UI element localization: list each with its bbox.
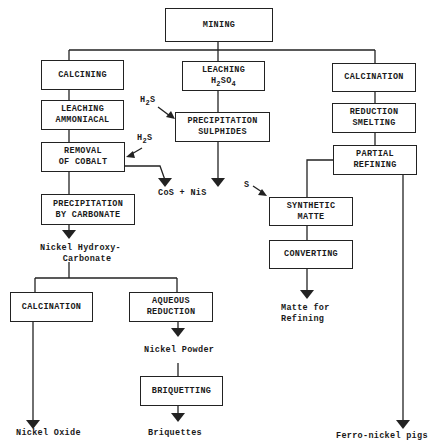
briquetting-label: BRIQUETTING bbox=[152, 386, 211, 397]
aqueous-reduction-box: AQUEOUS REDUCTION bbox=[129, 292, 213, 322]
calcining-label: CALCINING bbox=[58, 70, 107, 81]
partial-refining-line1: PARTIAL bbox=[356, 149, 394, 160]
mining-label: MINING bbox=[203, 20, 235, 31]
removal-line2: OF COBALT bbox=[59, 157, 108, 168]
reduction-smelting-line2: SMELTING bbox=[352, 118, 395, 129]
removal-of-cobalt-box: REMOVAL OF COBALT bbox=[41, 142, 125, 172]
cos-nis-product: CoS + NiS bbox=[158, 188, 207, 199]
removal-line1: REMOVAL bbox=[64, 146, 102, 157]
calcination-right-label: CALCINATION bbox=[344, 72, 403, 83]
reduction-smelting-box: REDUCTION SMELTING bbox=[332, 103, 416, 133]
precipitation-carbonate-line2: BY CARBONATE bbox=[56, 210, 121, 221]
precipitation-carbonate-line1: PRECIPITATION bbox=[53, 199, 123, 210]
nickel-oxide-product: Nickel Oxide bbox=[16, 428, 81, 439]
ferro-nickel-pigs-product: Ferro-nickel pigs bbox=[336, 431, 428, 442]
partial-refining-line2: REFINING bbox=[353, 160, 396, 171]
calcining-box: CALCINING bbox=[41, 60, 124, 90]
calcination-bottom-label: CALCINATION bbox=[22, 302, 81, 313]
partial-refining-box: PARTIAL REFINING bbox=[333, 145, 417, 175]
leaching-ammoniacal-line1: LEACHING bbox=[61, 104, 104, 115]
calcination-right-box: CALCINATION bbox=[332, 63, 416, 92]
h2s-reagent-label-left: H2S bbox=[137, 133, 152, 144]
nickel-hydroxy-carbonate-label: Nickel Hydroxy- Carbonate bbox=[40, 243, 121, 265]
leaching-h2so4-box: LEACHING H2SO4 bbox=[182, 61, 265, 91]
precipitation-sulphides-line2: SULPHIDES bbox=[198, 127, 247, 138]
aqueous-line1: AQUEOUS bbox=[152, 296, 190, 307]
nickel-powder-label: Nickel Powder bbox=[144, 345, 214, 356]
sulfur-reagent-label: S bbox=[244, 180, 249, 191]
aqueous-line2: REDUCTION bbox=[147, 307, 196, 318]
precipitation-sulphides-box: PRECIPITATION SULPHIDES bbox=[175, 112, 270, 142]
synthetic-matte-line1: SYNTHETIC bbox=[287, 201, 336, 212]
converting-label: CONVERTING bbox=[284, 249, 338, 260]
precipitation-carbonate-box: PRECIPITATION BY CARBONATE bbox=[41, 194, 135, 225]
calcination-bottom-box: CALCINATION bbox=[10, 292, 93, 322]
briquetting-box: BRIQUETTING bbox=[140, 376, 223, 406]
reduction-smelting-line1: REDUCTION bbox=[350, 107, 399, 118]
h2s-reagent-label-middle: H2S bbox=[140, 95, 155, 106]
leaching-ammoniacal-line2: AMMONIACAL bbox=[55, 115, 109, 126]
h2so4-formula: H2SO4 bbox=[211, 76, 236, 87]
mining-box: MINING bbox=[165, 8, 273, 42]
synthetic-matte-line2: MATTE bbox=[297, 212, 324, 223]
leaching-label: LEACHING bbox=[202, 65, 245, 76]
briquettes-product: Briquettes bbox=[148, 428, 202, 439]
precipitation-sulphides-line1: PRECIPITATION bbox=[187, 116, 257, 127]
synthetic-matte-box: SYNTHETIC MATTE bbox=[269, 197, 353, 226]
converting-box: CONVERTING bbox=[269, 240, 353, 269]
leaching-ammoniacal-box: LEACHING AMMONIACAL bbox=[41, 100, 124, 130]
matte-for-refining-label: Matte for Refining bbox=[281, 303, 330, 325]
